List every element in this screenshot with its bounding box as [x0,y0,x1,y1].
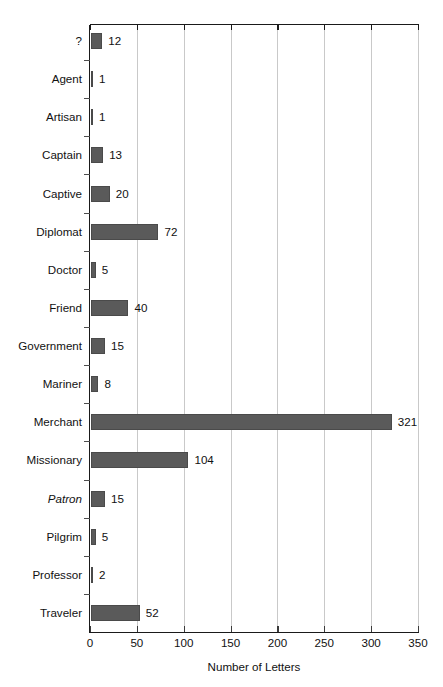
category-label: Missionary [27,452,82,468]
bar [91,376,98,392]
bar-value-label: 104 [194,452,213,468]
bar-value-label: 20 [116,186,129,202]
bar [91,452,188,468]
bar-value-label: 1 [99,71,105,87]
bar-row: Diplomat72 [0,224,443,240]
bar [91,491,105,507]
bar-row: Pilgrim5 [0,529,443,545]
bar [91,71,93,87]
category-label: Diplomat [36,224,82,240]
bar-value-label: 72 [164,224,177,240]
bar-value-label: 15 [111,338,124,354]
y-axis-tick [84,365,90,366]
x-axis-tick-label: 100 [164,636,204,649]
y-axis-tick [84,441,90,442]
bar [91,262,96,278]
bar [91,414,392,430]
bar-value-label: 321 [398,414,417,430]
category-label: Professor [32,567,82,583]
y-axis-tick [84,327,90,328]
x-axis-tick-label: 300 [351,636,391,649]
y-axis-tick [84,480,90,481]
category-label: Doctor [48,262,82,278]
category-label: Friend [49,300,82,316]
top-axis-tick [137,25,138,30]
category-label: Artisan [46,109,82,125]
bar-row: Captive20 [0,186,443,202]
bar-row: Professor2 [0,567,443,583]
bar [91,567,93,583]
bar [91,605,140,621]
bar-row: Missionary104 [0,452,443,468]
bar [91,529,96,545]
x-axis-tick-label: 50 [117,636,157,649]
category-label: Pilgrim [47,529,82,545]
y-axis-tick [84,136,90,137]
axis-top-border [90,24,419,25]
bar-row: Doctor5 [0,262,443,278]
top-axis-tick [231,25,232,30]
top-axis-tick [371,25,372,30]
category-label: Captain [42,147,82,163]
bar [91,33,102,49]
x-axis-tick-label: 350 [398,636,438,649]
bar-value-label: 5 [102,529,108,545]
top-axis-tick [184,25,185,30]
bar-row: Mariner8 [0,376,443,392]
bar [91,300,128,316]
bar-row: Patron15 [0,491,443,507]
x-axis-title: Number of Letters [90,660,418,673]
y-axis-tick [84,403,90,404]
category-label: Merchant [34,414,82,430]
y-axis-tick [84,213,90,214]
y-axis-tick [84,289,90,290]
axis-x-line [90,632,419,633]
bar-value-label: 52 [146,605,159,621]
bar [91,224,158,240]
bar-value-label: 15 [111,491,124,507]
bar [91,186,110,202]
bar-value-label: 2 [99,567,105,583]
category-label: Mariner [43,376,82,392]
top-axis-tick [324,25,325,30]
bar-chart: ?12Agent1Artisan1Captain13Captive20Diplo… [0,0,443,687]
bar [91,338,105,354]
x-axis-tick-label: 0 [70,636,110,649]
bar-value-label: 8 [104,376,110,392]
category-label: Traveler [40,605,82,621]
top-axis-tick [418,25,419,30]
y-axis-tick [84,594,90,595]
y-axis-tick [84,174,90,175]
category-label: ? [76,33,82,49]
bar [91,147,103,163]
bar-value-label: 5 [102,262,108,278]
bar-row: Agent1 [0,71,443,87]
y-axis-tick [84,251,90,252]
bar [91,109,93,125]
bar-row: Captain13 [0,147,443,163]
bar-row: ?12 [0,33,443,49]
y-axis-tick [84,98,90,99]
top-axis-tick [277,25,278,30]
bar-value-label: 40 [134,300,147,316]
category-label: Patron [48,491,82,507]
bar-row: Government15 [0,338,443,354]
bar-row: Friend40 [0,300,443,316]
y-axis-tick [84,518,90,519]
bar-value-label: 13 [109,147,122,163]
bar-row: Merchant321 [0,414,443,430]
category-label: Government [18,338,82,354]
category-label: Captive [43,186,82,202]
bar-row: Artisan1 [0,109,443,125]
x-axis-tick-label: 200 [257,636,297,649]
bar-value-label: 1 [99,109,105,125]
bar-value-label: 12 [108,33,121,49]
y-axis-tick [84,60,90,61]
bar-row: Traveler52 [0,605,443,621]
x-axis-tick-label: 150 [211,636,251,649]
y-axis-tick [84,556,90,557]
x-axis-tick-label: 250 [304,636,344,649]
category-label: Agent [52,71,82,87]
